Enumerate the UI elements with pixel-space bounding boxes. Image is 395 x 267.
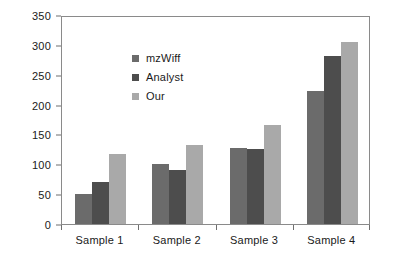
x-axis [61,225,370,231]
bar [247,149,264,224]
x-axis-tick-mark [138,225,139,230]
x-axis-tick-label: Sample 4 [307,234,355,246]
legend-item: Analyst [132,69,183,85]
bar [75,194,92,224]
x-axis-labels: Sample 1Sample 2Sample 3Sample 4 [61,234,370,254]
bar [307,91,324,224]
bar [230,148,247,224]
y-axis-tick-label: 50 [38,189,51,201]
bars-layer [62,17,369,224]
bar [324,56,341,224]
y-axis-tick-label: 350 [32,10,51,22]
bar [92,182,109,224]
legend-swatch-icon [132,93,139,100]
y-axis: 050100150200250300350 [0,16,61,225]
x-axis-tick-mark [61,225,62,230]
x-axis-tick-label: Sample 2 [153,234,201,246]
legend-label: Our [146,90,165,102]
bar [341,42,358,224]
plot-area: mzWiffAnalystOur [61,16,370,225]
bar [152,164,169,224]
x-axis-tick-mark [369,225,370,230]
y-axis-tick-label: 150 [32,129,51,141]
chart-legend: mzWiffAnalystOur [132,50,183,107]
y-axis-tick-label: 100 [32,159,51,171]
legend-label: mzWiff [146,52,181,64]
y-axis-tick-label: 0 [45,219,51,231]
legend-item: mzWiff [132,50,183,66]
bar [186,145,203,224]
legend-swatch-icon [132,55,139,62]
bar [169,170,186,224]
bar [264,125,281,224]
y-axis-tick-label: 200 [32,100,51,112]
x-axis-tick-label: Sample 1 [76,234,124,246]
y-axis-tick-label: 250 [32,70,51,82]
bar-chart-figure: 050100150200250300350 mzWiffAnalystOur S… [0,0,395,267]
legend-label: Analyst [146,71,183,83]
y-axis-tick-label: 300 [32,40,51,52]
x-axis-tick-label: Sample 3 [230,234,278,246]
legend-swatch-icon [132,74,139,81]
x-axis-tick-mark [216,225,217,230]
legend-item: Our [132,88,183,104]
bar [109,154,126,224]
x-axis-tick-mark [293,225,294,230]
